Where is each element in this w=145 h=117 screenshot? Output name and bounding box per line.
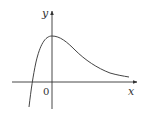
function-graph: y 0 x [0, 0, 145, 117]
origin-label: 0 [43, 86, 49, 97]
y-axis-label: y [41, 7, 49, 20]
x-axis-label: x [128, 85, 135, 98]
